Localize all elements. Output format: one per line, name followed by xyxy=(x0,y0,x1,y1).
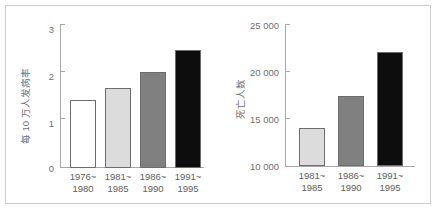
bar-1991-1995 xyxy=(377,52,403,166)
bar-1991-1995 xyxy=(175,50,201,168)
chart-panel-death-count: 死亡人数 25 000 20 000 15 000 10 000 1981~ 1… xyxy=(219,6,432,205)
x-category-line2: 1995 xyxy=(163,183,213,195)
bar-1986-1990 xyxy=(140,72,166,168)
y-tickmark-15000 xyxy=(286,118,290,119)
y-tickmark-0 xyxy=(61,167,65,168)
x-axis-line xyxy=(285,166,415,167)
bar-1976-1980 xyxy=(70,100,96,168)
x-category-line1: 1991~ xyxy=(163,171,213,183)
y-axis-line xyxy=(285,24,286,167)
x-category-line1: 1991~ xyxy=(365,170,415,182)
figure-frame: 每 10 万人发病率 3 2 1 0 1976~ 1980 xyxy=(5,5,431,204)
y-tickmark-1 xyxy=(61,118,65,119)
x-category-label-1991-1995: 1991~ 1995 xyxy=(365,170,415,193)
y-tick-label-20000: 20 000 xyxy=(231,67,279,78)
y-tickmark-20000 xyxy=(286,71,290,72)
chart-panel-incidence-rate: 每 10 万人发病率 3 2 1 0 1976~ 1980 xyxy=(6,6,219,205)
y-axis-label-death-count: 死亡人数 xyxy=(236,49,247,149)
y-tickmark-3 xyxy=(61,24,65,25)
bar-1986-1990 xyxy=(338,96,364,166)
y-tick-label-0: 0 xyxy=(30,163,54,174)
y-tick-label-15000: 15 000 xyxy=(231,114,279,125)
x-category-label-1991-1995: 1991~ 1995 xyxy=(163,171,213,194)
figure-container: 每 10 万人发病率 3 2 1 0 1976~ 1980 xyxy=(0,0,436,209)
y-tick-label-2: 2 xyxy=(30,71,54,82)
bar-1981-1985 xyxy=(105,88,131,168)
y-tickmark-25000 xyxy=(286,24,290,25)
y-tick-label-10000: 10 000 xyxy=(231,161,279,172)
y-tick-label-1: 1 xyxy=(30,118,54,129)
y-tickmark-10000 xyxy=(286,166,290,167)
x-category-line2: 1995 xyxy=(365,182,415,194)
y-tickmark-2 xyxy=(61,71,65,72)
bar-1981-1985 xyxy=(299,128,325,166)
y-tick-label-3: 3 xyxy=(30,24,54,35)
y-axis-line xyxy=(60,24,61,168)
y-tick-label-25000: 25 000 xyxy=(231,20,279,31)
